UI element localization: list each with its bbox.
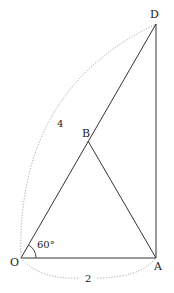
label-length-2: 2 bbox=[85, 273, 91, 284]
label-point-A: A bbox=[153, 260, 163, 273]
angle-arc-O bbox=[29, 245, 37, 258]
label-angle-60: 60° bbox=[37, 239, 55, 250]
label-point-D: D bbox=[150, 8, 159, 21]
geometry-diagram: D B O A 60° 4 2 bbox=[0, 0, 174, 293]
label-point-O: O bbox=[10, 256, 19, 269]
dimension-arc-OA-right bbox=[97, 258, 156, 278]
dimension-arc-OA bbox=[21, 258, 80, 278]
label-point-B: B bbox=[82, 127, 90, 140]
segment-BA bbox=[88, 141, 156, 258]
label-length-4: 4 bbox=[57, 118, 63, 129]
